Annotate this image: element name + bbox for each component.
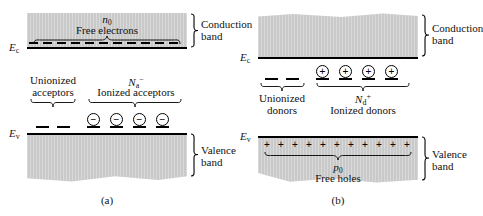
energy-level-ec-label-a: Ec xyxy=(9,41,19,55)
conduction-band-edge-ec-a xyxy=(27,47,187,49)
ionized-acceptor-charge: − xyxy=(110,113,123,126)
ionized-acceptor-state xyxy=(156,126,169,128)
unionized-donor-state xyxy=(286,78,299,80)
ionized-acceptor-charge: − xyxy=(156,113,169,126)
ev-symbol: E xyxy=(9,127,16,139)
na-superscript: − xyxy=(139,75,144,84)
conduction-band-brace-a xyxy=(190,13,199,48)
ionized-acceptor-charge: − xyxy=(133,113,146,126)
conduction-band-label-b-line2: band xyxy=(432,34,453,46)
ionized-donor-charge: + xyxy=(316,65,329,78)
ionized-acceptor-state xyxy=(110,126,123,128)
energy-level-ev-label-b: Ev xyxy=(240,130,251,144)
unionized-acceptor-state xyxy=(36,126,49,128)
unionized-acceptor-state xyxy=(57,126,70,128)
free-holes-label-b: Free holes xyxy=(258,172,418,184)
conduction-band-brace-b xyxy=(421,14,430,58)
ionized-donor-charge: + xyxy=(362,65,375,78)
ev-symbol: E xyxy=(240,130,247,142)
unionized-donors-brace xyxy=(260,83,305,92)
ionized-donor-state xyxy=(339,78,352,80)
free-holes-brace xyxy=(264,152,412,161)
nd-superscript: + xyxy=(366,92,371,101)
ec-subscript: c xyxy=(16,46,20,55)
valence-band-brace-a xyxy=(190,133,199,178)
unionized-acceptors-label-line1: Unionized xyxy=(22,74,84,86)
valence-band-edge-ev-b xyxy=(258,136,418,138)
valence-band-label-b-line2: band xyxy=(432,160,453,172)
ev-subscript: v xyxy=(16,132,20,141)
ionized-acceptors-label: Ionized acceptors xyxy=(86,86,186,98)
panel-a-p-type: n0 Free electrons Ec xyxy=(0,0,231,216)
energy-level-ev-label-a: Ev xyxy=(9,127,20,141)
unionized-acceptors-brace xyxy=(30,99,76,108)
ev-subscript: v xyxy=(247,135,251,144)
valence-band-label-a-line2: band xyxy=(201,156,222,168)
panel-b-caption: (b) xyxy=(308,194,368,206)
conduction-band-label-b-line1: Conduction xyxy=(432,22,483,34)
unionized-donors-label-line1: Unionized xyxy=(251,92,313,104)
ionized-donor-state xyxy=(362,78,375,80)
unionized-donors-label-line2: donors xyxy=(251,104,313,116)
panel-b-n-type: Ec Conduction band + + + + xyxy=(231,0,462,216)
valence-band-label-b-line1: Valence xyxy=(432,148,467,160)
unionized-donor-state xyxy=(265,78,278,80)
energy-level-ec-label-b: Ec xyxy=(240,51,250,65)
free-electrons-label-a: Free electrons xyxy=(27,24,187,36)
valence-band-brace-b xyxy=(421,136,430,182)
ionized-acceptor-state xyxy=(133,126,146,128)
ec-symbol: E xyxy=(240,51,247,63)
conduction-band-edge-ec-b xyxy=(258,57,418,59)
ec-subscript: c xyxy=(247,56,251,65)
conduction-band-label-a-line2: band xyxy=(201,30,222,42)
valence-band-shading-a xyxy=(27,135,187,182)
conduction-band-shading-b xyxy=(258,13,418,57)
ionized-donors-label: Ionized donors xyxy=(314,104,412,116)
valence-band-edge-ev-a xyxy=(27,133,187,135)
ionized-donor-charge: + xyxy=(385,65,398,78)
unionized-acceptors-label-line2: acceptors xyxy=(22,86,84,98)
ionized-acceptor-state xyxy=(87,126,100,128)
ionized-donor-charge: + xyxy=(339,65,352,78)
ionized-acceptor-charge: − xyxy=(87,113,100,126)
ec-symbol: E xyxy=(9,41,16,53)
ionized-donor-state xyxy=(385,78,398,80)
panel-a-caption: (a) xyxy=(77,194,137,206)
ionized-acceptors-brace xyxy=(88,99,182,108)
ionized-donor-state xyxy=(316,78,329,80)
